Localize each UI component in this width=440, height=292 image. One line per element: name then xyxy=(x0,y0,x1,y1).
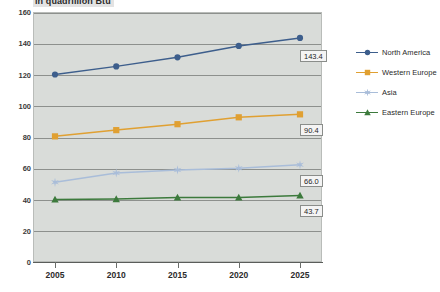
y-axis-tick-label: 0 xyxy=(3,258,31,267)
x-axis-tick-mark xyxy=(300,262,301,268)
legend-item[interactable]: Asia xyxy=(356,82,440,102)
x-axis-tick-mark xyxy=(178,262,179,268)
data-point-marker xyxy=(236,43,242,49)
data-point-marker xyxy=(113,127,119,133)
legend-marker-icon xyxy=(356,67,378,78)
data-point-marker xyxy=(52,133,58,139)
series-end-value-label: 90.4 xyxy=(300,124,323,136)
series-end-value-label: 143.4 xyxy=(300,50,327,62)
data-point-marker xyxy=(297,111,303,117)
y-axis-tick-label: 100 xyxy=(3,101,31,110)
data-point-marker xyxy=(174,54,180,60)
data-point-marker xyxy=(52,71,58,77)
x-axis-tick-label: 2025 xyxy=(291,270,310,280)
legend-marker-icon xyxy=(356,87,378,98)
series-end-value-label: 43.7 xyxy=(300,205,323,217)
y-axis-tick-label: 20 xyxy=(3,226,31,235)
legend-marker-icon xyxy=(356,107,378,118)
y-axis-tick-label: 40 xyxy=(3,195,31,204)
x-axis-tick-mark xyxy=(55,262,56,268)
data-point-marker xyxy=(174,121,180,127)
chart-legend: North AmericaWestern EuropeAsiaEastern E… xyxy=(356,42,440,122)
legend-item-label: Eastern Europe xyxy=(378,108,435,117)
y-axis-tick-label: 60 xyxy=(3,164,31,173)
data-point-marker xyxy=(364,109,370,115)
x-axis-tick-label: 2010 xyxy=(107,270,126,280)
series-end-value-label: 66.0 xyxy=(300,175,323,187)
y-axis-tick-label: 80 xyxy=(3,133,31,142)
chart-root: in quadrillion Btu 020406080100120140160… xyxy=(0,0,440,292)
x-axis-tick-mark xyxy=(116,262,117,268)
y-axis-tick-label: 120 xyxy=(3,70,31,79)
data-point-marker xyxy=(113,63,119,69)
series-layer xyxy=(33,12,322,262)
legend-marker-icon xyxy=(356,47,378,58)
data-point-marker xyxy=(297,35,303,41)
legend-item[interactable]: North America xyxy=(356,42,440,62)
y-axis-tick-label: 160 xyxy=(3,8,31,17)
x-axis-tick-label: 2015 xyxy=(168,270,187,280)
data-point-marker xyxy=(236,114,242,120)
x-axis-tick-label: 2005 xyxy=(46,270,65,280)
data-point-marker xyxy=(365,49,370,54)
x-axis-tick-mark xyxy=(239,262,240,268)
legend-item[interactable]: Eastern Europe xyxy=(356,102,440,122)
y-axis-ticks: 020406080100120140160 xyxy=(0,0,31,292)
legend-item-label: Asia xyxy=(378,88,397,97)
y-axis-tick-label: 140 xyxy=(3,39,31,48)
chart-title: in quadrillion Btu xyxy=(33,0,114,7)
data-point-marker xyxy=(365,69,370,74)
legend-item[interactable]: Western Europe xyxy=(356,62,440,82)
legend-item-label: North America xyxy=(378,48,430,57)
legend-item-label: Western Europe xyxy=(378,68,437,77)
x-axis-tick-label: 2020 xyxy=(229,270,248,280)
data-point-marker xyxy=(364,89,371,96)
